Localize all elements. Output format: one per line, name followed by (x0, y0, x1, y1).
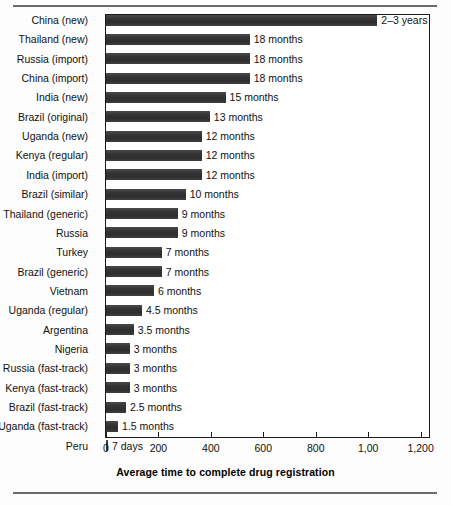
x-axis-tick-mark (211, 432, 212, 438)
x-axis-tick-mark (263, 432, 264, 438)
x-axis-tick-mark (421, 432, 422, 438)
x-axis-tick-label: 800 (286, 442, 346, 454)
x-axis-tick-label: 600 (233, 442, 293, 454)
x-axis-tick-label: 1,200 (391, 442, 451, 454)
x-axis-title: Average time to complete drug registrati… (0, 466, 451, 478)
x-axis-layer: 02004006008001,001,200 (0, 0, 451, 505)
x-axis-tick-mark (368, 432, 369, 438)
x-axis-tick-label: 1,00 (338, 442, 398, 454)
x-axis-tick-label: 200 (128, 442, 188, 454)
figure-container: China (new)Thailand (new)Russia (import)… (0, 0, 451, 505)
x-axis-tick-mark (106, 432, 107, 438)
x-axis-tick-mark (316, 432, 317, 438)
x-axis-tick-label: 400 (181, 442, 241, 454)
x-axis-tick-label: 0 (76, 442, 136, 454)
x-axis-tick-mark (158, 432, 159, 438)
